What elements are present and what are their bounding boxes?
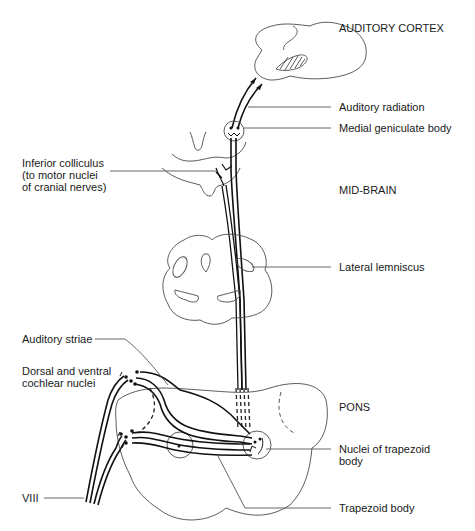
inferior-colliculus-label: Inferior colliculus (to motor nuclei of …: [22, 157, 106, 193]
pons-label: PONS: [339, 401, 370, 413]
cochlear-nuclei-label: Dorsal and ventral cochlear nuclei: [22, 365, 111, 389]
medial-geniculate-body-shape: [224, 121, 244, 141]
auditory-radiation-tract: [232, 78, 262, 128]
cochlear-nucleus-tracts: [132, 372, 252, 455]
trapezoid-body-label: Trapezoid body: [339, 502, 414, 514]
lateral-lemniscus-label: Lateral lemniscus: [339, 261, 425, 273]
auditory-radiation-label: Auditory radiation: [339, 101, 425, 113]
pons-shape: [116, 384, 328, 520]
inferior-colliculus-shape: [162, 132, 246, 196]
medial-geniculate-body-label: Medial geniculate body: [339, 122, 452, 134]
nuclei-of-trapezoid-body-label: Nuclei of trapezoid body: [339, 443, 430, 467]
mid-brain-label: MID-BRAIN: [339, 184, 396, 196]
cochlear-nuclei-dots: [119, 370, 139, 445]
colliculus-branches: [216, 164, 232, 186]
nerve-viii-label: VIII: [22, 492, 39, 504]
auditory-cortex-label: AUDITORY CORTEX: [339, 22, 444, 34]
auditory-striae-label: Auditory striae: [22, 333, 92, 345]
pons-dotted-tract: [236, 388, 250, 430]
lateral-lemniscus-tract: [222, 138, 246, 390]
midbrain-cross-section: [163, 234, 272, 324]
nerve-viii-bundle: [86, 372, 128, 505]
